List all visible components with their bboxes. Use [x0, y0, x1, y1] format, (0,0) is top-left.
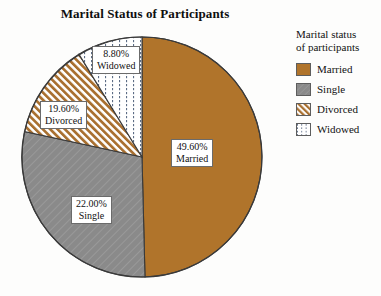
legend-title-line1: Marital status [296, 28, 380, 41]
pie-chart-figure: Marital Status of Participants [0, 0, 381, 296]
legend-item-single[interactable]: Single [296, 80, 380, 98]
slice-label-single: 22.00% Single [71, 196, 112, 224]
legend-label-widowed: Widowed [317, 123, 359, 136]
slice-label-married-percent: 49.60% [176, 141, 208, 153]
slice-label-divorced-category: Divorced [45, 115, 82, 127]
slice-label-single-category: Single [76, 210, 107, 222]
legend-label-married: Married [317, 63, 352, 76]
slice-label-widowed-category: Widowed [97, 60, 135, 72]
slice-label-single-percent: 22.00% [76, 198, 107, 210]
legend-title: Marital status of participants [296, 28, 380, 54]
legend-title-line2: of participants [296, 41, 380, 54]
legend-item-widowed[interactable]: Widowed [296, 120, 380, 138]
legend-swatch-widowed-icon [296, 123, 311, 136]
slice-label-widowed-percent: 8.80% [97, 48, 135, 60]
slice-label-divorced: 19.60% Divorced [40, 101, 87, 129]
legend-item-married[interactable]: Married [296, 60, 380, 78]
legend-label-divorced: Divorced [317, 103, 358, 116]
legend-label-single: Single [317, 83, 345, 96]
legend-swatch-divorced-icon [296, 103, 311, 116]
legend-item-divorced[interactable]: Divorced [296, 100, 380, 118]
slice-label-divorced-percent: 19.60% [45, 103, 82, 115]
legend-swatch-married-icon [296, 63, 311, 76]
chart-legend: Marital status of participants Married S… [296, 28, 380, 140]
slice-label-married-category: Married [176, 153, 208, 165]
slice-label-married: 49.60% Married [171, 139, 213, 167]
slice-label-widowed: 8.80% Widowed [92, 46, 140, 74]
legend-swatch-single-icon [296, 83, 311, 96]
